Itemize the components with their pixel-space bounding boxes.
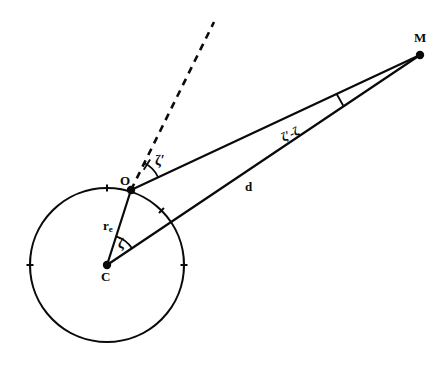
zenith-direction-dashed-line: [131, 22, 214, 190]
radius-subscript: e: [109, 224, 113, 234]
angle-label-zeta-prime: ζ′: [155, 154, 165, 168]
point-label-m: M: [414, 31, 426, 44]
angle-label-zeta: ζ: [118, 237, 124, 251]
segment-label-distance: d: [245, 180, 252, 193]
segment-label-earth-radius: re: [103, 219, 113, 234]
segment-observer-to-target: [131, 55, 420, 190]
angle-tick-at-target: [337, 94, 344, 106]
diagram-canvas: [0, 0, 447, 369]
point-dot-m: [416, 51, 424, 59]
geometry-diagram: C O M re d ζ′ ζ ζ′-ζ: [0, 0, 447, 369]
segment-center-to-target: [107, 55, 420, 265]
point-label-o: O: [120, 174, 130, 187]
point-dot-c: [103, 261, 111, 269]
point-label-c: C: [101, 270, 110, 283]
